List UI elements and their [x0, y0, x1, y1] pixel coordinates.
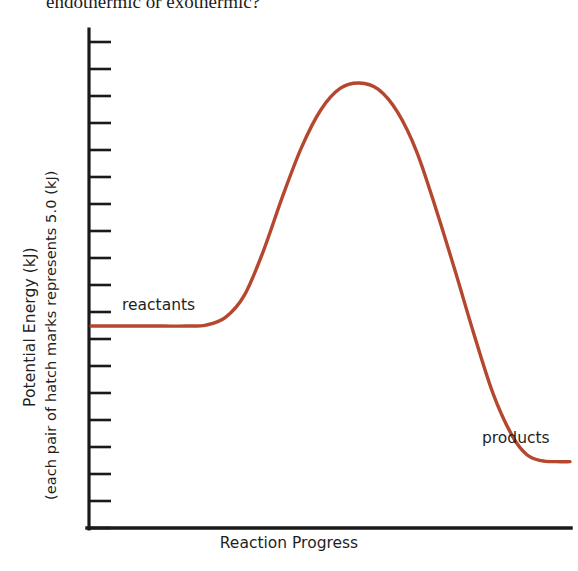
x-axis-title: Reaction Progress	[0, 534, 578, 552]
energy-diagram-figure: Potential Energy (kJ) (each pair of hatc…	[0, 0, 578, 571]
y-axis-hatch-marks	[90, 42, 111, 528]
products-label: products	[482, 429, 550, 447]
plot-area	[0, 0, 578, 571]
reactants-label: reactants	[122, 296, 195, 314]
energy-profile-curve	[91, 83, 570, 462]
